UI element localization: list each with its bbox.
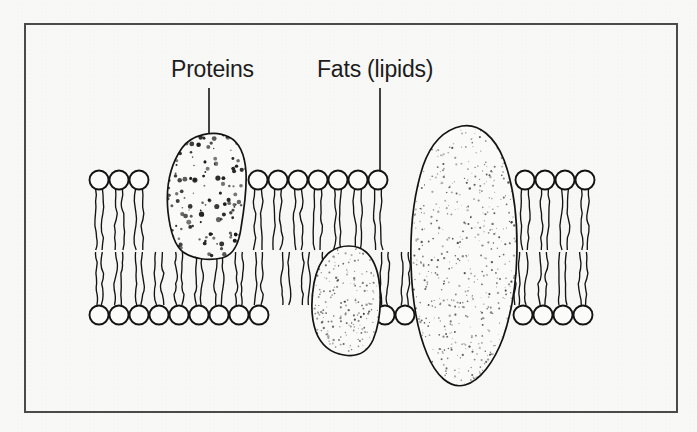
stipple-dot [471,337,472,338]
stipple-dot [455,331,456,332]
stipple-dot [477,233,479,235]
stipple-dot [461,343,462,344]
stipple-dot [498,334,499,335]
stipple-dot [428,304,430,306]
stipple-dot [425,354,427,356]
stipple-dot [467,206,469,208]
stipple-dot [467,179,469,181]
stipple-dot [505,195,506,196]
stipple-dot [503,197,505,199]
stipple-dot [431,191,433,193]
stipple-dot [512,131,513,132]
stipple-dot [446,373,447,374]
stipple-dot [472,295,473,296]
stipple-dot [454,157,456,159]
stipple-dot [179,243,183,247]
stipple-dot [483,231,484,232]
stipple-dot [416,151,417,152]
stipple-dot [213,157,217,161]
stipple-dot [491,223,493,225]
stipple-dot [424,288,426,290]
stipple-dot [373,274,374,275]
lipid-tail [578,252,581,305]
lipid-head [130,306,149,325]
lipid-tail [407,252,410,305]
stipple-dot [495,138,497,140]
stipple-dot [503,254,505,256]
stipple-dot [512,311,513,312]
stipple-dot [484,213,486,215]
stipple-dot [179,135,181,137]
stipple-dot [502,297,503,298]
stipple-dot [428,138,430,140]
stipple-dot [442,352,444,354]
stipple-dot [360,286,361,287]
stipple-dot [361,328,363,330]
stipple-dot [460,163,462,165]
stipple-dot [439,348,441,350]
lipid-tail [101,189,104,250]
stipple-dot [317,311,319,313]
stipple-dot [202,175,205,178]
stipple-dot [437,211,439,213]
stipple-dot [501,157,503,159]
stipple-dot [235,204,237,206]
stipple-dot [350,259,351,260]
stipple-dot [419,221,421,223]
stipple-dot [424,279,426,281]
stipple-dot [331,321,333,323]
stipple-dot [462,230,464,232]
stipple-dot [367,290,368,291]
stipple-dot [421,187,423,189]
stipple-dot [491,198,493,200]
stipple-dot [184,197,186,199]
stipple-dot [410,372,411,373]
stipple-dot [463,222,465,224]
lipid-tail [401,252,403,305]
lipid-tail [293,189,296,250]
stipple-dot [470,327,471,328]
stipple-dot [372,298,374,300]
stipple-dot [192,178,197,183]
stipple-dot [452,238,454,240]
stipple-dot [481,284,483,286]
stipple-dot [418,174,420,176]
stipple-dot [465,291,467,293]
stipple-dot [497,206,498,207]
stipple-dot [186,220,191,225]
stipple-dot [510,286,511,287]
stipple-dot [476,152,477,153]
stipple-dot [498,302,500,304]
stipple-dot [319,289,321,291]
stipple-dot [361,332,363,334]
stipple-dot [499,339,500,340]
stipple-dot [438,227,440,229]
stipple-dot [486,274,487,275]
stipple-dot [431,361,433,363]
stipple-dot [459,302,461,304]
stipple-dot [458,208,459,209]
stipple-dot [469,187,471,189]
stipple-dot [340,302,342,304]
stipple-dot [479,227,481,229]
stipple-dot [432,176,433,177]
stipple-dot [419,302,421,304]
lipid-tail [101,252,104,305]
lipid-head [514,306,533,325]
stipple-dot [417,344,418,345]
stipple-dot [510,281,512,283]
stipple-dot [334,265,335,266]
stipple-dot [459,372,460,373]
stipple-dot [340,320,342,322]
stipple-dot [508,178,509,179]
stipple-dot [373,331,374,332]
stipple-dot [435,177,437,179]
stipple-dot [471,374,473,376]
stipple-dot [505,290,507,292]
stipple-dot [494,192,495,193]
stipple-dot [479,347,481,349]
stipple-dot [466,207,467,208]
stipple-dot [467,168,469,170]
stipple-dot [222,252,226,256]
stipple-dot [311,268,313,270]
